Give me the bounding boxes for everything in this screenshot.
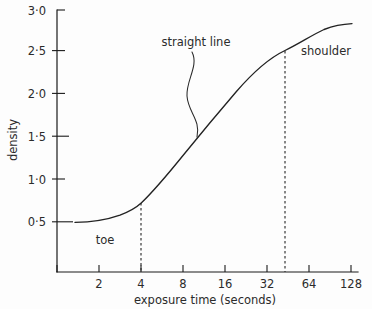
annotation-shoulder: shoulder <box>301 44 351 58</box>
x-axis-title: exposure time (seconds) <box>134 293 276 307</box>
x-tick-label: 16 <box>218 277 233 291</box>
y-tick-label: 1·5 <box>28 130 46 144</box>
annotation-toe: toe <box>96 233 115 247</box>
x-tick-label: 64 <box>302 277 317 291</box>
x-tick-label: 128 <box>340 277 362 291</box>
y-tick-labels: 3·0 2·5 2·0 1·5 1·0 0·5 <box>28 4 46 230</box>
y-tick-label: 2·5 <box>28 44 46 58</box>
figure-characteristic-curve: 3·0 2·5 2·0 1·5 1·0 0·5 2 4 8 16 32 64 1… <box>0 0 372 309</box>
y-tick-label: 2·0 <box>28 87 46 101</box>
y-tick-marks <box>52 10 73 222</box>
x-tick-label: 2 <box>95 277 102 291</box>
x-tick-label: 32 <box>260 277 275 291</box>
y-axis-title: density <box>6 119 20 161</box>
y-tick-label: 3·0 <box>28 4 46 18</box>
chart-canvas: 3·0 2·5 2·0 1·5 1·0 0·5 2 4 8 16 32 64 1… <box>0 0 372 309</box>
y-tick-label: 1·0 <box>28 173 46 187</box>
x-tick-marks <box>57 265 351 272</box>
annotation-straight-line: straight line <box>162 35 231 49</box>
leader-line-straight-line <box>187 52 198 137</box>
y-tick-label: 0·5 <box>28 215 46 229</box>
x-tick-label: 8 <box>179 277 186 291</box>
x-tick-labels: 2 4 8 16 32 64 128 <box>95 277 362 291</box>
x-tick-label: 4 <box>137 277 144 291</box>
